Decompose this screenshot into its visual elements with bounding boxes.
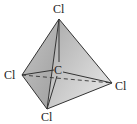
atom-label-left: Cl xyxy=(4,68,16,82)
atom-label-bottom: Cl xyxy=(41,110,53,124)
tetrahedron-diagram: Cl Cl Cl Cl C xyxy=(0,0,137,124)
atom-label-top: Cl xyxy=(53,2,65,16)
atom-label-center: C xyxy=(54,63,62,77)
atom-label-right: Cl xyxy=(115,79,127,93)
